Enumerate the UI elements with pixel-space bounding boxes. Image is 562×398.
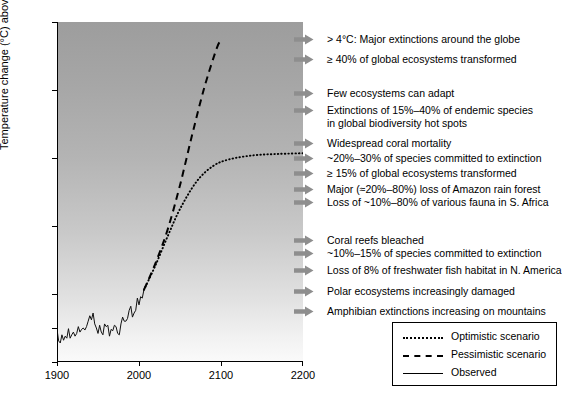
impact-annotation: ~10%–15% of species committed to extinct… [305,247,542,259]
annotation-text: Extinctions of 15%–40% of endemic specie… [305,104,533,116]
legend-item: Pessimistic scenario [393,345,556,365]
impact-annotation: Coral reefs bleached [305,234,424,246]
arrow-right-icon [294,265,314,276]
x-tick-label-2: 2100 [196,370,246,381]
impact-annotation: Few ecosystems can adapt [305,87,454,99]
legend-item: Observed [393,363,556,383]
annotation-text: Coral reefs bleached [305,234,424,246]
legend-label: Pessimistic scenario [451,348,546,361]
x-tick-label-1: 2000 [114,370,164,381]
arrow-right-icon [294,34,314,45]
arrow-right-icon [294,306,314,317]
annotation-text: ≥ 15% of global ecosystems transformed [305,167,517,179]
impact-annotation: Amphibian extinctions increasing on moun… [305,305,546,317]
arrow-right-icon [294,286,314,297]
impact-annotations: > 4°C: Major extinctions around the glob… [305,0,561,330]
legend-symbol-dashed [403,355,443,357]
arrow-right-icon [294,88,314,99]
arrow-right-icon [294,248,314,259]
arrow-right-icon [294,138,314,149]
impact-annotation: Widespread coral mortality [305,137,451,149]
annotation-text: Few ecosystems can adapt [305,87,454,99]
impact-annotation: Loss of ~10%–80% of various fauna in S. … [305,196,549,208]
annotation-text: Amphibian extinctions increasing on moun… [305,305,546,317]
impact-annotation: ≥ 15% of global ecosystems transformed [305,167,517,179]
annotation-text: ~10%–15% of species committed to extinct… [305,247,542,259]
annotation-text: Loss of ~10%–80% of various fauna in S. … [305,196,549,208]
legend-label: Optimistic scenario [451,330,540,343]
arrow-right-icon [294,153,314,164]
annotation-text: ~20%–30% of species committed to extinct… [305,152,542,164]
arrow-right-icon [294,235,314,246]
arrow-right-icon [294,184,314,195]
legend-symbol-dotted [403,337,443,339]
arrow-right-icon [294,197,314,208]
impact-annotation: > 4°C: Major extinctions around the glob… [305,33,520,45]
legend-symbol-solid [403,373,443,374]
annotation-text: in global biodiversity hot spots [305,117,533,129]
arrow-right-icon [294,168,314,179]
y-axis-title: Temperature change (°C) above preindustr… [0,0,10,150]
impact-annotation: Major (≈20%–80%) loss of Amazon rain for… [305,183,541,195]
impact-annotation: ≥ 40% of global ecosystems transformed [305,53,517,65]
impact-annotation: ~20%–30% of species committed to extinct… [305,152,542,164]
arrow-right-icon [294,54,314,65]
annotation-text: Widespread coral mortality [305,137,451,149]
annotation-text: Major (≈20%–80%) loss of Amazon rain for… [305,183,541,195]
annotation-text: ≥ 40% of global ecosystems transformed [305,53,517,65]
impact-annotation: Extinctions of 15%–40% of endemic specie… [305,104,533,128]
annotation-text: > 4°C: Major extinctions around the glob… [305,33,520,45]
x-tick-label-0: 1900 [32,370,82,381]
legend-box: Optimistic scenarioPessimistic scenarioO… [392,322,557,386]
arrow-right-icon [294,105,314,116]
annotation-text: Loss of 8% of freshwater fish habitat in… [305,264,562,276]
impact-annotation: Loss of 8% of freshwater fish habitat in… [305,264,562,276]
legend-item: Optimistic scenario [393,327,556,347]
x-tick-label-3: 2200 [278,370,328,381]
annotation-text: Polar ecosystems increasingly damaged [305,285,515,297]
legend-label: Observed [451,366,497,379]
impact-annotation: Polar ecosystems increasingly damaged [305,285,515,297]
